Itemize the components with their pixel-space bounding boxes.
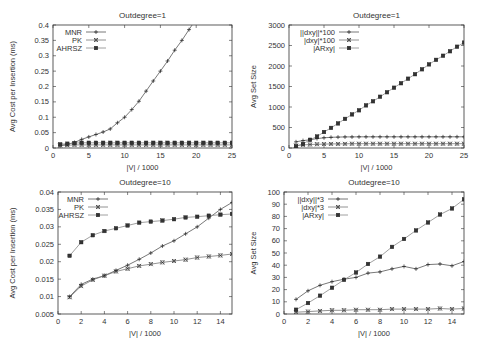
data-point-marker	[354, 275, 358, 279]
y-tick-label: 0.005	[35, 310, 54, 319]
data-point-marker	[402, 264, 406, 268]
data-point-marker	[137, 257, 141, 261]
y-tick-label: 0	[281, 144, 285, 153]
x-tick-label: 14	[216, 317, 224, 326]
data-point-marker	[172, 239, 176, 243]
x-tick-label: 10	[120, 151, 128, 160]
legend: ||dxy||*100|dxy|*100|ARxy|	[300, 28, 359, 53]
data-point-marker	[413, 135, 417, 139]
legend-marker	[94, 46, 98, 50]
y-tick-label: 3000	[268, 21, 285, 30]
data-point-marker	[426, 221, 430, 225]
y-tick-label: 30	[272, 273, 280, 282]
x-tick-label: 12	[424, 317, 432, 326]
data-point-marker	[219, 213, 223, 217]
data-point-marker	[406, 135, 410, 139]
data-point-marker	[187, 141, 191, 145]
y-tick-label: 0.25	[34, 67, 49, 76]
data-point-marker	[80, 141, 84, 145]
data-point-marker	[329, 135, 333, 139]
x-tick-label: 6	[126, 317, 130, 326]
data-point-marker	[294, 308, 298, 312]
data-point-marker	[130, 141, 134, 145]
y-tick-label: 0.2	[39, 82, 49, 91]
data-point-marker	[378, 255, 382, 259]
data-point-marker	[68, 254, 72, 258]
legend-marker	[96, 205, 100, 209]
data-point-marker	[159, 141, 163, 145]
data-point-marker	[329, 126, 333, 130]
y-tick-label: 0.1	[39, 113, 49, 122]
data-point-marker	[414, 267, 418, 271]
y-tick-label: 60	[272, 236, 280, 245]
data-point-marker	[427, 135, 431, 139]
data-point-marker	[144, 141, 148, 145]
x-tick-label: 8	[378, 317, 382, 326]
x-tick-label: 6	[354, 317, 358, 326]
data-point-marker	[184, 216, 188, 220]
x-tick-label: 15	[390, 151, 398, 160]
data-point-marker	[385, 90, 389, 94]
y-tick-label: 0.035	[35, 205, 54, 214]
data-point-marker	[294, 145, 298, 149]
data-point-marker	[216, 141, 220, 145]
data-point-marker	[354, 271, 358, 275]
x-tick-label: 10	[170, 317, 178, 326]
data-point-marker	[91, 233, 95, 237]
x-axis-label: |V| / 1000	[361, 163, 393, 172]
y-tick-label: 0.04	[39, 188, 54, 197]
data-point-marker	[160, 244, 164, 248]
data-point-marker	[455, 135, 459, 139]
data-point-marker	[420, 135, 424, 139]
data-point-marker	[126, 224, 130, 228]
y-tick-label: 50	[272, 249, 280, 258]
x-tick-label: 20	[425, 151, 433, 160]
data-point-marker	[364, 104, 368, 108]
data-point-marker	[223, 141, 227, 145]
data-point-marker	[101, 130, 105, 134]
chart-title: Outdegree=1	[353, 11, 400, 20]
data-point-marker	[371, 99, 375, 103]
data-point-marker	[413, 72, 417, 76]
legend-marker	[96, 197, 100, 201]
data-point-marker	[385, 135, 389, 139]
data-point-marker	[306, 301, 310, 305]
data-point-marker	[301, 142, 305, 146]
data-point-marker	[230, 200, 234, 204]
x-tick-label: 5	[87, 151, 91, 160]
data-point-marker	[448, 135, 452, 139]
data-point-marker	[151, 141, 155, 145]
data-point-marker	[438, 213, 442, 217]
data-point-marker	[357, 135, 361, 139]
data-point-marker	[126, 263, 130, 267]
data-point-marker	[137, 221, 141, 225]
legend-marker	[347, 46, 351, 50]
y-tick-label: 500	[272, 123, 285, 132]
y-tick-label: 90	[272, 200, 280, 209]
data-point-marker	[343, 135, 347, 139]
data-point-marker	[114, 226, 118, 230]
data-point-marker	[441, 54, 445, 58]
data-point-marker	[137, 141, 141, 145]
data-point-marker	[392, 86, 396, 90]
data-point-marker	[184, 232, 188, 236]
data-point-marker	[308, 138, 312, 142]
data-point-marker	[108, 141, 112, 145]
data-point-marker	[420, 67, 424, 71]
x-tick-label: 15	[156, 151, 164, 160]
y-tick-label: 0.01	[39, 292, 54, 301]
data-point-marker	[87, 135, 91, 139]
data-point-marker	[392, 135, 396, 139]
y-tick-label: 0.15	[34, 97, 49, 106]
x-tick-label: 8	[149, 317, 153, 326]
y-tick-label: 0.35	[34, 36, 49, 45]
y-axis-label: Avg Cost per Insertion (ms)	[8, 207, 17, 299]
legend-label: |ARxy|	[302, 211, 324, 220]
y-tick-label: 2500	[268, 41, 285, 50]
x-tick-label: 12	[193, 317, 201, 326]
y-tick-label: 1000	[268, 103, 285, 112]
x-tick-label: 0	[56, 317, 60, 326]
data-point-marker	[343, 117, 347, 121]
y-tick-label: 0	[45, 144, 49, 153]
data-point-marker	[455, 45, 459, 49]
